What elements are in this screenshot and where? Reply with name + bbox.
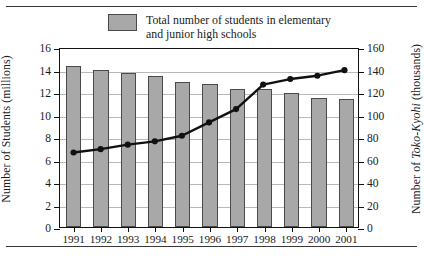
line-marker-1991	[70, 149, 76, 155]
x-tick	[210, 227, 211, 232]
left-tick-label: 12	[40, 88, 52, 100]
right-tick-label: 120	[367, 88, 384, 100]
left-axis-title: Number of Students (millions)	[0, 39, 14, 219]
x-tick	[74, 227, 75, 232]
left-tick-label: 4	[45, 178, 51, 190]
legend-swatch-bar	[108, 14, 137, 31]
x-tick	[128, 227, 129, 232]
right-tick	[358, 139, 364, 140]
left-tick	[54, 207, 60, 208]
right-tick	[358, 117, 364, 118]
right-tick-label: 60	[367, 156, 379, 168]
right-tick	[358, 184, 364, 185]
x-tick	[183, 227, 184, 232]
right-axis-title-prefix: Number of	[409, 158, 423, 213]
right-axis-title-suffix: (thousands)	[409, 43, 423, 102]
x-tick-label-1993: 1993	[117, 234, 139, 245]
x-tick	[319, 227, 320, 232]
line-marker-1999	[287, 76, 293, 82]
right-tick-label: 140	[367, 66, 384, 78]
right-tick	[358, 72, 364, 73]
x-tick	[155, 227, 156, 232]
left-tick	[54, 162, 60, 163]
left-tick	[54, 117, 60, 118]
right-tick-label: 40	[367, 178, 379, 190]
left-tick-label: 14	[40, 66, 52, 78]
x-tick	[101, 227, 102, 232]
x-tick-label-2000: 2000	[308, 234, 330, 245]
x-tick-label-1997: 1997	[226, 234, 248, 245]
right-axis-title: Number of Toko-Kyohi (thousands)	[409, 39, 424, 219]
line-marker-2001	[341, 67, 347, 73]
line-marker-2000	[314, 73, 320, 79]
line-marker-1995	[179, 133, 185, 139]
legend-item-bars: Total number of students in elementary a…	[108, 13, 331, 41]
left-tick-label: 2	[45, 201, 51, 213]
x-tick	[292, 227, 293, 232]
left-tick-label: 16	[40, 43, 52, 55]
left-tick	[54, 49, 60, 50]
left-tick-label: 6	[45, 156, 51, 168]
left-tick-label: 8	[45, 133, 51, 145]
right-tick	[358, 162, 364, 163]
line-marker-1998	[260, 82, 266, 88]
x-tick	[237, 227, 238, 232]
x-tick-label-1992: 1992	[90, 234, 112, 245]
x-tick-label-1991: 1991	[62, 234, 84, 245]
left-tick-label: 10	[40, 111, 52, 123]
x-tick-label-1995: 1995	[172, 234, 194, 245]
right-tick-label: 20	[367, 201, 379, 213]
right-tick-label: 0	[367, 223, 373, 235]
legend-label-bars: Total number of students in elementary a…	[146, 13, 331, 41]
left-tick	[54, 184, 60, 185]
bottom-border-rule	[6, 246, 417, 247]
plot-area: 0246810121416 020406080100120140160 1991…	[59, 48, 359, 228]
left-tick-label: 0	[45, 223, 51, 235]
right-tick	[358, 49, 364, 50]
line-path	[74, 70, 345, 152]
right-tick	[358, 229, 364, 230]
line-marker-1993	[125, 142, 131, 148]
line-marker-1997	[233, 106, 239, 112]
left-tick	[54, 72, 60, 73]
line-marker-1996	[206, 119, 212, 125]
x-tick-label-1996: 1996	[199, 234, 221, 245]
right-tick-label: 160	[367, 43, 384, 55]
right-tick-label: 80	[367, 133, 379, 145]
x-tick-label-1998: 1998	[253, 234, 275, 245]
line-series	[60, 49, 358, 227]
left-tick	[54, 139, 60, 140]
right-tick	[358, 94, 364, 95]
x-tick-label-1999: 1999	[281, 234, 303, 245]
x-tick-label-1994: 1994	[144, 234, 166, 245]
x-tick	[346, 227, 347, 232]
top-border-rule	[6, 6, 417, 7]
line-marker-1994	[152, 138, 158, 144]
line-marker-1992	[98, 146, 104, 152]
left-tick	[54, 229, 60, 230]
chart-legend: Total number of students in elementary a…	[108, 13, 331, 41]
right-tick	[358, 207, 364, 208]
x-tick	[265, 227, 266, 232]
left-tick	[54, 94, 60, 95]
x-tick-label-2001: 2001	[335, 234, 357, 245]
right-axis-title-italic: Toko-Kyohi	[409, 103, 423, 159]
right-tick-label: 100	[367, 111, 384, 123]
